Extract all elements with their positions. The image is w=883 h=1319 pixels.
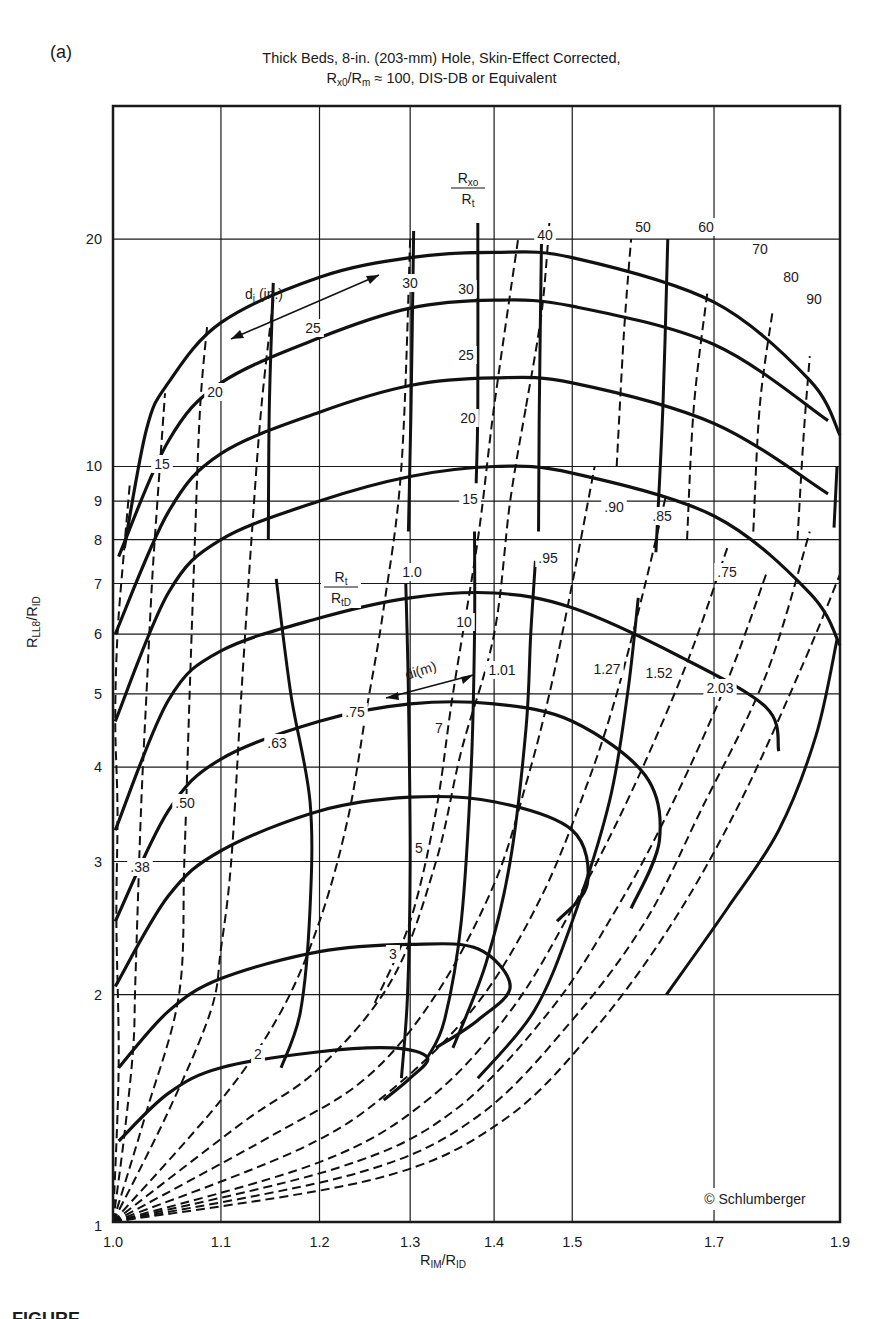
- y-tick-label: 7: [94, 576, 102, 592]
- x-tick-label: 1.9: [830, 1234, 850, 1250]
- y-tick-label: 2: [94, 987, 102, 1003]
- di-m-label: .38: [130, 859, 150, 875]
- y-tick-label: 10: [86, 458, 102, 474]
- rxo-rt-top-label: 60: [698, 219, 714, 235]
- tornado-chart: 2357101520253040506070809015202530.38.50…: [0, 0, 883, 1319]
- di-in-label: 30: [402, 275, 418, 291]
- di-m-label: .75: [345, 704, 365, 720]
- dashed-di-curve: [113, 532, 810, 1222]
- y-tick-label: 4: [94, 759, 102, 775]
- rxo-rt-top-label: 90: [806, 291, 822, 307]
- rt-rtd-label: .75: [717, 564, 737, 580]
- di-m-label: .63: [267, 735, 287, 751]
- di-m-label: 2.03: [706, 680, 733, 696]
- dashed-di-curve: [753, 312, 772, 531]
- dashed-di-curve: [113, 483, 130, 1222]
- rxo-rt-label: 7: [435, 720, 443, 736]
- dashed-di-curve: [113, 494, 666, 1222]
- y-tick-label: 6: [94, 626, 102, 642]
- rt-rtd-curve: [834, 466, 837, 527]
- rxo-rt-curve: [119, 944, 511, 1068]
- rt-rtd-fraction-label: RtRtD: [321, 564, 361, 608]
- y-tick-label: 9: [94, 493, 102, 509]
- y-tick-label: 1: [94, 1218, 102, 1234]
- rxo-rt-label: 2: [254, 1046, 262, 1062]
- rxo-rt-label: 20: [460, 410, 476, 426]
- dashed-di-curve: [113, 292, 274, 1222]
- rxo-rt-label: 30: [458, 281, 474, 297]
- di-in-arrow-label: di (in.): [245, 286, 283, 304]
- rt-rtd-curves: [268, 223, 837, 1078]
- rxo-rt-top-label: 40: [537, 227, 553, 243]
- x-tick-label: 1.4: [484, 1234, 504, 1250]
- copyright-text: © Schlumberger: [704, 1191, 806, 1207]
- rt-rtd-curve: [401, 584, 410, 1079]
- rxo-rt-label: 3: [389, 946, 397, 962]
- di-in-label: 25: [305, 320, 321, 336]
- y-axis-title: RLL8/RID: [24, 596, 42, 648]
- rt-rtd-label: .85: [652, 508, 672, 524]
- rxo-rt-label: 25: [458, 347, 474, 363]
- figure-caption-cut: FIGURE: [12, 1308, 80, 1319]
- rt-rtd-label: 1.0: [402, 564, 422, 580]
- arrowhead-right: [366, 275, 379, 284]
- arrowhead-right: [461, 675, 473, 684]
- rxo-rt-top-label: 80: [783, 269, 799, 285]
- rt-rtd-label: .90: [604, 499, 624, 515]
- x-tick-label: 1.2: [309, 1234, 329, 1250]
- rxo-rt-label: 5: [415, 840, 423, 856]
- x-tick-label: 1.1: [211, 1234, 231, 1250]
- y-tick-label: 8: [94, 532, 102, 548]
- arrowhead-left: [231, 330, 244, 339]
- y-tick-label: 5: [94, 686, 102, 702]
- di-in-label: 15: [154, 456, 170, 472]
- arrowhead-left: [386, 692, 399, 700]
- di-m-label: 1.01: [488, 662, 515, 678]
- x-tick-label: 1.3: [400, 1234, 420, 1250]
- di-m-label: 1.52: [645, 665, 672, 681]
- rxo-rt-curve: [119, 1048, 428, 1141]
- rxo-rt-top-label: 70: [752, 241, 768, 257]
- x-axis-title: RIM/RID: [420, 1252, 466, 1270]
- di-in-label: 20: [207, 384, 223, 400]
- rxo-rt-fraction-label: RxoRt: [448, 165, 488, 209]
- rxo-rt-label: 10: [456, 614, 472, 630]
- y-tick-label: 3: [94, 854, 102, 870]
- di-m-label: 1.27: [593, 661, 620, 677]
- dashed-di-curve: [113, 393, 165, 1222]
- rxo-rt-curve: [124, 252, 840, 548]
- x-tick-label: 1.5: [562, 1234, 582, 1250]
- rxo-rt-top-label: 50: [635, 219, 651, 235]
- rt-rtd-curve: [656, 239, 668, 552]
- di-m-arrow: [386, 675, 473, 698]
- x-tick-label: 1.7: [704, 1234, 724, 1250]
- rt-rtd-label: .95: [538, 550, 558, 566]
- x-tick-label: 1.0: [103, 1234, 123, 1250]
- rt-rtd-curve: [666, 640, 837, 995]
- rxo-rt-curve: [115, 592, 778, 830]
- y-tick-label: 20: [86, 231, 102, 247]
- di-m-label: .50: [175, 795, 195, 811]
- rxo-rt-label: 15: [462, 491, 478, 507]
- rt-rtd-curve: [539, 231, 542, 532]
- dashed-di-curve: [797, 356, 809, 540]
